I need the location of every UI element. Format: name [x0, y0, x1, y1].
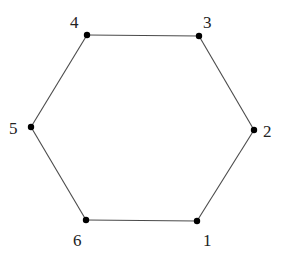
vertices-group — [28, 32, 257, 224]
labels-group: 123456 — [9, 13, 272, 250]
vertex-6 — [83, 217, 89, 223]
hexagon-diagram: 123456 — [0, 0, 289, 255]
vertex-label-6: 6 — [73, 231, 82, 250]
vertex-label-5: 5 — [9, 119, 18, 138]
diagram-canvas: 123456 — [0, 0, 289, 255]
edge-2-3 — [199, 36, 254, 130]
vertex-label-3: 3 — [203, 13, 212, 32]
edges-group — [31, 35, 254, 221]
vertex-3 — [196, 33, 202, 39]
vertex-2 — [251, 127, 257, 133]
edge-1-2 — [197, 130, 254, 221]
vertex-label-1: 1 — [203, 231, 212, 250]
edge-6-1 — [86, 220, 197, 221]
edge-4-5 — [31, 35, 87, 127]
vertex-5 — [28, 124, 34, 130]
vertex-label-4: 4 — [70, 13, 79, 32]
vertex-label-2: 2 — [263, 122, 272, 141]
vertex-4 — [84, 32, 90, 38]
vertex-1 — [194, 218, 200, 224]
edge-5-6 — [31, 127, 86, 220]
edge-3-4 — [87, 35, 199, 36]
